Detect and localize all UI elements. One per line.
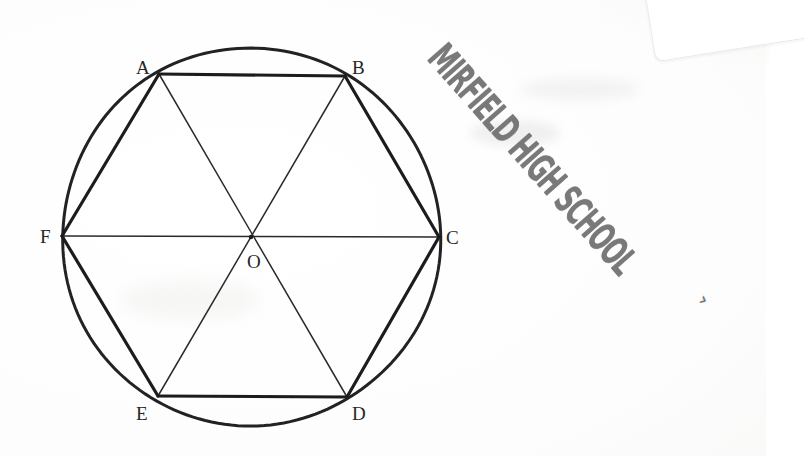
point-label-A: A	[136, 58, 150, 77]
hexagon-edge-DE	[158, 396, 347, 397]
point-label-E: E	[136, 404, 148, 423]
diagonal-AD	[159, 74, 347, 397]
hexagon-edge-CD	[347, 237, 439, 397]
hexagon-edge-EF	[62, 236, 158, 396]
hexagon-edge-BC	[345, 76, 439, 237]
centre-point-O	[249, 235, 253, 239]
hexagon-edge-AB	[159, 74, 345, 76]
point-label-F: F	[40, 227, 51, 246]
point-label-D: D	[352, 404, 366, 423]
point-label-C: C	[446, 228, 459, 247]
hexagon-edge-FA	[62, 74, 159, 236]
point-label-B: B	[352, 58, 365, 77]
point-label-O: O	[247, 252, 261, 271]
